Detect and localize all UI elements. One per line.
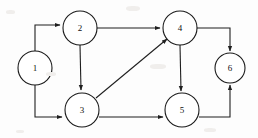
edge-4-to-5: [180, 45, 181, 91]
node-1-label: 1: [33, 63, 38, 73]
edge-5-to-6: [199, 85, 230, 117]
node-1: 1: [18, 51, 52, 85]
edge-2-to-3: [80, 45, 81, 90]
edge-1-to-3: [35, 85, 62, 117]
edge-3-to-4: [96, 39, 167, 98]
directed-graph-figure: 1 2 3 4 5 6: [0, 0, 258, 138]
node-2-label: 2: [78, 23, 83, 33]
node-4-label: 4: [178, 23, 183, 33]
node-5-label: 5: [180, 105, 185, 115]
node-3: 3: [65, 93, 99, 127]
edge-1-to-2: [35, 25, 60, 51]
node-6-label: 6: [228, 63, 233, 73]
edges-group: [35, 25, 230, 117]
node-3-label: 3: [80, 105, 85, 115]
graph-canvas: 1 2 3 4 5 6: [0, 0, 258, 138]
edge-4-to-6: [197, 28, 230, 51]
node-5: 5: [165, 93, 199, 127]
node-4: 4: [163, 11, 197, 45]
node-2: 2: [63, 11, 97, 45]
node-6: 6: [215, 53, 245, 83]
